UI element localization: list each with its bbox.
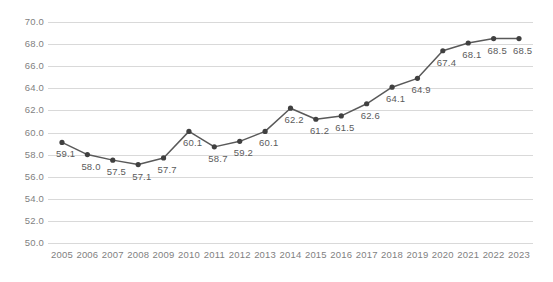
- y-tick-label: 50.0: [4, 238, 44, 248]
- data-point-marker: [85, 152, 90, 157]
- x-tick-label: 2009: [153, 250, 175, 260]
- data-point-marker: [186, 129, 191, 134]
- y-tick-label: 56.0: [4, 172, 44, 182]
- data-point-marker: [389, 85, 394, 90]
- y-tick-label: 68.0: [4, 39, 44, 49]
- data-point-label: 60.1: [259, 138, 278, 148]
- x-axis: 2005200620072008200920102011201220132014…: [48, 250, 533, 270]
- x-tick-label: 2014: [280, 250, 302, 260]
- data-point-marker: [440, 48, 445, 53]
- x-tick-label: 2005: [51, 250, 73, 260]
- data-point-marker: [59, 140, 64, 145]
- x-tick-label: 2010: [178, 250, 200, 260]
- data-point-label: 61.5: [335, 123, 354, 133]
- gridline: [48, 243, 533, 244]
- data-series-line: [48, 22, 533, 243]
- x-tick-label: 2021: [457, 250, 479, 260]
- data-point-label: 62.2: [285, 115, 304, 125]
- data-point-marker: [136, 162, 141, 167]
- data-point-label: 58.0: [81, 162, 100, 172]
- x-tick-label: 2011: [204, 250, 225, 260]
- x-tick-label: 2006: [76, 250, 98, 260]
- data-point-label: 64.9: [411, 85, 430, 95]
- y-tick-label: 60.0: [4, 128, 44, 138]
- data-point-label: 57.5: [107, 167, 126, 177]
- data-point-marker: [313, 117, 318, 122]
- x-tick-label: 2012: [229, 250, 251, 260]
- data-point-marker: [491, 36, 496, 41]
- y-tick-label: 62.0: [4, 105, 44, 115]
- data-point-label: 68.1: [462, 50, 481, 60]
- data-point-label: 67.4: [437, 58, 456, 68]
- data-point-label: 62.6: [361, 111, 380, 121]
- data-point-marker: [339, 113, 344, 118]
- x-tick-label: 2007: [102, 250, 124, 260]
- x-tick-label: 2020: [432, 250, 454, 260]
- x-tick-label: 2022: [483, 250, 505, 260]
- data-point-marker: [288, 106, 293, 111]
- data-point-marker: [212, 144, 217, 149]
- data-point-marker: [161, 155, 166, 160]
- data-point-marker: [110, 158, 115, 163]
- y-tick-label: 54.0: [4, 194, 44, 204]
- data-point-label: 61.2: [310, 126, 329, 136]
- data-point-label: 68.5: [488, 46, 507, 56]
- x-tick-label: 2017: [356, 250, 378, 260]
- data-point-label: 58.7: [208, 154, 227, 164]
- line-chart: 70.068.066.064.062.060.058.056.054.052.0…: [0, 0, 553, 282]
- y-tick-label: 66.0: [4, 61, 44, 71]
- data-point-marker: [415, 76, 420, 81]
- y-tick-label: 52.0: [4, 216, 44, 226]
- x-tick-label: 2018: [381, 250, 403, 260]
- x-tick-label: 2015: [305, 250, 327, 260]
- data-point-marker: [237, 139, 242, 144]
- data-point-label: 59.2: [234, 148, 253, 158]
- data-point-label: 57.7: [158, 165, 177, 175]
- y-tick-label: 58.0: [4, 150, 44, 160]
- x-tick-label: 2013: [254, 250, 276, 260]
- y-axis: 70.068.066.064.062.060.058.056.054.052.0…: [0, 0, 44, 282]
- x-tick-label: 2023: [508, 250, 530, 260]
- data-point-label: 60.1: [183, 138, 202, 148]
- y-tick-label: 64.0: [4, 83, 44, 93]
- data-point-label: 57.1: [132, 172, 151, 182]
- data-point-label: 64.1: [386, 94, 405, 104]
- data-point-label: 59.1: [56, 149, 75, 159]
- data-point-label: 68.5: [513, 46, 532, 56]
- plot-area: 59.158.057.557.157.760.158.759.260.162.2…: [48, 22, 533, 243]
- data-point-marker: [466, 40, 471, 45]
- data-point-marker: [263, 129, 268, 134]
- data-point-marker: [516, 36, 521, 41]
- x-tick-label: 2019: [406, 250, 428, 260]
- y-tick-label: 70.0: [4, 17, 44, 27]
- data-point-marker: [364, 101, 369, 106]
- x-tick-label: 2016: [330, 250, 352, 260]
- x-tick-label: 2008: [127, 250, 149, 260]
